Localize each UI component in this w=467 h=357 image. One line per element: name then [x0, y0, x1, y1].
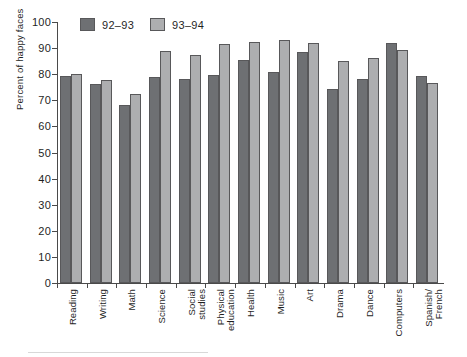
bar-group	[416, 76, 438, 283]
bar	[297, 52, 308, 283]
y-axis-tick-label: 40	[38, 173, 51, 185]
bar	[249, 42, 260, 283]
y-axis-tick-label: 90	[38, 42, 51, 54]
scan-artifact	[28, 352, 208, 353]
y-axis-tick-label: 60	[38, 120, 51, 132]
bar-group	[268, 40, 290, 284]
bar-group	[386, 43, 408, 283]
bar	[308, 43, 319, 283]
x-axis-category-label: Computers	[394, 289, 404, 336]
x-axis-category-label: Writing	[98, 289, 108, 319]
bar	[238, 60, 249, 283]
bar-group	[90, 80, 112, 283]
bar	[71, 74, 82, 283]
y-axis-tick	[52, 74, 57, 75]
y-axis-tick-label: 30	[38, 199, 51, 211]
bar-group	[327, 61, 349, 283]
bar-group	[238, 42, 260, 283]
bar	[90, 84, 101, 283]
bar	[427, 83, 438, 283]
x-axis-category-label: Socialstudies	[187, 289, 207, 320]
y-axis-tick	[52, 22, 57, 23]
y-axis-tick-label: 20	[38, 225, 51, 237]
x-axis-category-label: Music	[276, 289, 286, 314]
y-axis-tick	[52, 231, 57, 232]
x-axis-tick	[324, 283, 325, 288]
x-axis-tick	[235, 283, 236, 288]
bar-group	[357, 58, 379, 283]
bar	[268, 72, 279, 283]
bar-group	[149, 51, 171, 283]
y-axis-tick	[52, 126, 57, 127]
bar	[101, 80, 112, 283]
x-axis-category-label: Health	[246, 289, 256, 317]
bar-group	[119, 94, 141, 283]
x-axis-tick	[384, 283, 385, 288]
bar	[149, 77, 160, 283]
bar	[357, 79, 368, 283]
x-axis-tick	[354, 283, 355, 288]
bar	[279, 40, 290, 284]
y-axis-tick-label: 80	[38, 68, 51, 80]
y-axis-tick	[52, 153, 57, 154]
y-axis-tick	[52, 205, 57, 206]
bar	[179, 79, 190, 283]
x-axis-category-label: Physicaleducation	[216, 289, 236, 331]
bar-group	[297, 43, 319, 283]
bar	[160, 51, 171, 283]
x-axis-tick	[57, 283, 58, 288]
x-axis-tick	[176, 283, 177, 288]
x-axis-category-label: Science	[157, 289, 167, 324]
bar	[416, 76, 427, 283]
bar	[327, 89, 338, 283]
y-axis-tick	[52, 179, 57, 180]
bar-group	[179, 55, 201, 283]
bar	[119, 105, 130, 283]
x-axis-category-label: Art	[305, 289, 315, 301]
y-axis-tick-label: 50	[38, 147, 51, 159]
bar	[338, 61, 349, 283]
x-axis-tick	[116, 283, 117, 288]
y-axis-tick	[52, 100, 57, 101]
y-axis-tick	[52, 257, 57, 258]
bar-group	[60, 74, 82, 283]
x-axis-category-label: Drama	[335, 289, 345, 318]
x-axis-category-label: Reading	[68, 289, 78, 325]
x-axis-tick	[413, 283, 414, 288]
bar	[368, 58, 379, 283]
x-axis-tick	[205, 283, 206, 288]
bar	[60, 76, 71, 283]
bar	[190, 55, 201, 283]
x-axis-tick	[87, 283, 88, 288]
x-axis-line	[57, 283, 444, 284]
bar	[397, 50, 408, 283]
x-axis-tick	[146, 283, 147, 288]
y-axis-tick-label: 100	[32, 16, 51, 28]
x-axis-category-label: Spanish/French	[424, 289, 444, 327]
plot-area: 0102030405060708090100	[57, 22, 443, 283]
bar	[130, 94, 141, 283]
x-axis-category-label: Math	[127, 289, 137, 311]
bar	[219, 44, 230, 283]
x-axis-tick	[265, 283, 266, 288]
y-axis-title: Percent of happy faces	[14, 96, 25, 110]
bar-group	[208, 44, 230, 283]
bar	[386, 43, 397, 283]
bar-chart: 92–93 93–94 Percent of happy faces 01020…	[0, 0, 467, 357]
y-axis-tick	[52, 48, 57, 49]
bar	[208, 75, 219, 283]
x-axis-category-label: Dance	[365, 289, 375, 317]
y-axis-tick-label: 0	[45, 277, 51, 289]
x-axis-tick	[295, 283, 296, 288]
y-axis-tick-label: 70	[38, 94, 51, 106]
y-axis-tick-label: 10	[38, 251, 51, 263]
